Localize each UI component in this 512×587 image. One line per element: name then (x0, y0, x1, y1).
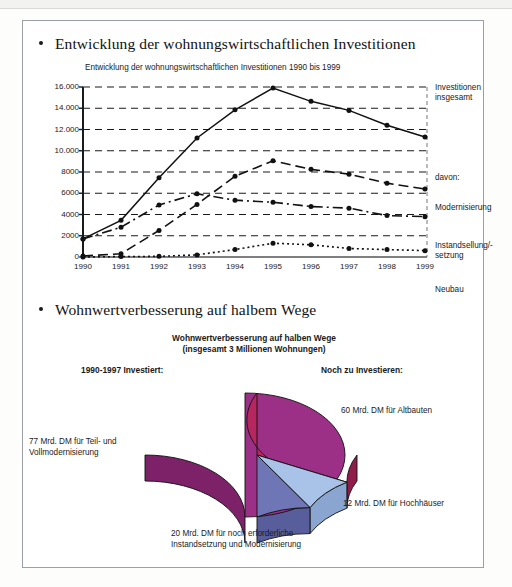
data-point (385, 123, 390, 128)
legend-label-line-1: davon: (435, 173, 460, 183)
x-axis-label: 1995 (253, 262, 293, 271)
series-2 (81, 191, 428, 241)
x-axis-label: 1991 (101, 262, 141, 271)
y-axis-label: 8000 (43, 167, 79, 176)
y-axis-label: 4000 (43, 210, 79, 219)
data-point (81, 236, 86, 241)
data-point (119, 225, 124, 230)
pie-label-line-1: 20 Mrd. DM für noch erforderliche (171, 529, 451, 540)
legend-label-line-1: Investitionen (435, 83, 481, 93)
y-axis-label: 10.000 (43, 146, 79, 155)
legend-label-line-2: setzung (435, 251, 493, 261)
x-axis-label: 1992 (139, 262, 179, 271)
legend-label-line-2: insgesamt (435, 93, 481, 103)
series-0 (81, 86, 428, 242)
pie-label-line-1: 77 Mrd. DM für Teil- und (29, 437, 179, 448)
data-point (271, 241, 276, 246)
heading-2-text: Wohnwertverbesserung auf halbem Wege (55, 301, 316, 319)
data-point (385, 181, 390, 186)
data-point (157, 202, 162, 207)
bullet-heading-2: Wohnwertverbesserung auf halbem Wege (39, 301, 316, 319)
heading-1-text: Entwicklung der wohnungswirtschaftlichen… (55, 35, 416, 53)
data-point (347, 246, 352, 251)
data-point (423, 248, 428, 253)
slide-frame: Entwicklung der wohnungswirtschaftlichen… (22, 20, 484, 568)
pie-chart: Wohnwertverbesserung auf halben Wege (in… (23, 333, 485, 569)
legend-entry: Investitioneninsgesamt (435, 83, 481, 104)
data-point (271, 86, 276, 91)
y-axis-label: 16.000 (43, 82, 79, 91)
x-axis-label: 1990 (63, 262, 103, 271)
data-point (233, 174, 238, 179)
bullet-dot-icon (39, 41, 43, 45)
series-line (83, 161, 425, 256)
data-point (157, 228, 162, 233)
pie-label-hochhaeuser: 12 Mrd. DM für Hochhäuser (343, 499, 493, 510)
x-axis-label: 1998 (367, 262, 407, 271)
data-point (347, 206, 352, 211)
pie-left-header: 1990-1997 Investiert: (81, 365, 163, 375)
data-point (195, 191, 200, 196)
pie-title-line-2: (insgesamt 3 Millionen Wohnungen) (23, 344, 485, 355)
y-axis-label: 0 (43, 252, 79, 261)
data-point (347, 108, 352, 113)
pie-label-line-2: Vollmodernisierung (29, 448, 179, 459)
data-point (195, 136, 200, 141)
data-point (119, 254, 124, 259)
x-axis-label: 1999 (405, 262, 445, 271)
pie-label-instandsetzung: 20 Mrd. DM für noch erforderliche Instan… (171, 529, 451, 550)
data-point (423, 187, 428, 192)
data-point (271, 200, 276, 205)
x-axis-label: 1994 (215, 262, 255, 271)
data-point (157, 175, 162, 180)
data-point (423, 134, 428, 139)
data-point (309, 242, 314, 247)
data-point (271, 158, 276, 163)
legend-entry: Neubau (435, 285, 464, 295)
data-point (233, 107, 238, 112)
bullet-dot-icon (39, 307, 43, 311)
data-point (157, 254, 162, 259)
data-point (309, 204, 314, 209)
data-point (309, 167, 314, 172)
page-top-edge (0, 0, 512, 9)
x-axis-label: 1996 (291, 262, 331, 271)
data-point (309, 99, 314, 104)
data-point (385, 213, 390, 218)
line-chart-svg (43, 79, 467, 291)
data-point (233, 198, 238, 203)
data-point (385, 247, 390, 252)
data-point (347, 172, 352, 177)
line-chart: Entwicklung der wohnungswirtschaftlichen… (43, 63, 467, 291)
line-chart-plot (43, 79, 467, 291)
y-axis-label: 2000 (43, 231, 79, 240)
data-point (195, 252, 200, 257)
pie-label-line-2: Instandsetzung und Modernisierung (171, 540, 451, 551)
y-axis-label: 6000 (43, 188, 79, 197)
series-line (83, 88, 425, 239)
pie-chart-title: Wohnwertverbesserung auf halben Wege (in… (23, 333, 485, 356)
legend-entry: Modernisierung (435, 203, 491, 213)
x-axis-label: 1993 (177, 262, 217, 271)
legend-label-line-1: Modernisierung (435, 203, 491, 213)
pie-right-header: Noch zu Investieren: (321, 365, 403, 375)
legend-entry: Instandsellung/-setzung (435, 241, 493, 262)
series-line (83, 194, 425, 239)
page-canvas: Entwicklung der wohnungswirtschaftlichen… (0, 0, 512, 587)
data-point (119, 218, 124, 223)
y-axis-label: 14.000 (43, 103, 79, 112)
legend-entry: davon: (435, 173, 460, 183)
data-point (195, 202, 200, 207)
line-chart-title: Entwicklung der wohnungswirtschaftlichen… (85, 63, 340, 72)
pie-label-altbauten: 60 Mrd. DM für Altbauten (341, 406, 491, 417)
pie-title-line-1: Wohnwertverbesserung auf halben Wege (23, 333, 485, 344)
data-point (233, 247, 238, 252)
pie-label-teil-voll: 77 Mrd. DM für Teil- und Vollmodernisier… (29, 437, 179, 458)
data-point (81, 255, 86, 260)
legend-label-line-1: Neubau (435, 285, 464, 295)
legend-label-line-1: Instandsellung/- (435, 241, 493, 251)
x-axis-label: 1997 (329, 262, 369, 271)
y-axis-label: 12.000 (43, 125, 79, 134)
bullet-heading-1: Entwicklung der wohnungswirtschaftlichen… (39, 35, 416, 53)
data-point (423, 214, 428, 219)
